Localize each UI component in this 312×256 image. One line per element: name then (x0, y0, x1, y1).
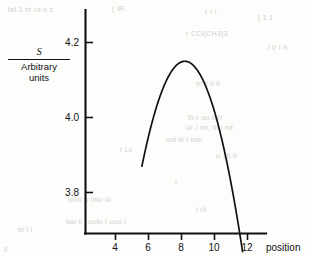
chart-figure: tel 1 hr rd u s ( IR. r r l ] 1 1 r CCl(… (0, 0, 312, 256)
x-tick-label-8: 8 (178, 242, 184, 253)
plot-svg: 4.2 4.0 3.8 4 6 8 10 12 position (0, 0, 312, 256)
x-tick-label-6: 6 (145, 242, 151, 253)
x-axis-title: position (266, 242, 300, 253)
y-tick-label-4.0: 4.0 (65, 112, 79, 123)
y-tick-label-3.8: 3.8 (65, 187, 79, 198)
x-tick-label-4: 4 (112, 242, 118, 253)
x-tick-label-10: 10 (208, 242, 220, 253)
data-curve-S (142, 61, 243, 251)
y-tick-label-4.2: 4.2 (65, 37, 79, 48)
